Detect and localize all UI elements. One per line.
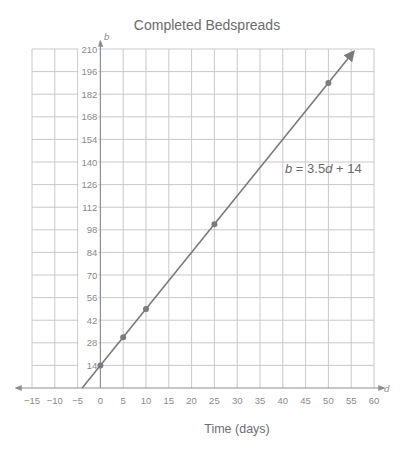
y-tick-label: 126: [82, 179, 98, 190]
data-point: [120, 334, 126, 340]
x-tick-label: 20: [186, 395, 197, 406]
x-tick-labels: −15−10−5051015202530354045505560: [24, 395, 379, 406]
y-axis-variable-label: b: [104, 31, 109, 42]
x-tick-label: 30: [232, 395, 243, 406]
x-tick-label: 5: [121, 395, 126, 406]
y-tick-label: 168: [82, 111, 98, 122]
x-tick-label: 50: [323, 395, 334, 406]
x-tick-label: −5: [72, 395, 83, 406]
x-tick-label: 10: [141, 395, 152, 406]
x-tick-label: 15: [164, 395, 175, 406]
x-axis-title: Time (days): [204, 422, 270, 436]
y-tick-label: 140: [82, 157, 98, 168]
x-tick-label: 35: [255, 395, 266, 406]
x-tick-label: 55: [346, 395, 357, 406]
y-tick-label: 196: [82, 66, 98, 77]
y-tick-label: 84: [87, 247, 98, 258]
x-tick-label: 0: [98, 395, 103, 406]
y-tick-label: 210: [82, 44, 98, 55]
y-tick-label: 28: [87, 337, 98, 348]
equation-lhs: b: [285, 161, 292, 176]
x-tick-label: −15: [24, 395, 40, 406]
data-point: [97, 362, 103, 368]
y-tick-label: 98: [87, 224, 98, 235]
x-tick-label: 40: [278, 395, 289, 406]
data-point: [325, 80, 331, 86]
chart-title: Completed Bedspreads: [134, 17, 280, 33]
x-tick-label: 60: [369, 395, 380, 406]
y-tick-label: 56: [87, 292, 98, 303]
x-tick-label: 45: [300, 395, 311, 406]
x-tick-label: 25: [209, 395, 220, 406]
equation-coef: = 3.5: [292, 161, 325, 176]
y-tick-label: 182: [82, 89, 98, 100]
y-tick-label: 70: [87, 270, 98, 281]
equation-rhs: + 14: [332, 161, 361, 176]
y-tick-label: 112: [82, 202, 97, 213]
line-chart: Completed Bedspreads −15−10−505101520253…: [0, 0, 413, 452]
y-tick-label: 154: [82, 134, 98, 145]
x-axis-variable-label: d: [384, 383, 390, 394]
data-point: [143, 306, 149, 312]
y-tick-label: 42: [87, 315, 98, 326]
y-tick-label: 14: [87, 360, 98, 371]
data-point: [211, 221, 217, 227]
x-tick-label: −10: [47, 395, 63, 406]
equation-label: b = 3.5d + 14: [285, 161, 362, 176]
y-tick-labels: 14284256708498112126140154168182196210: [78, 43, 98, 371]
